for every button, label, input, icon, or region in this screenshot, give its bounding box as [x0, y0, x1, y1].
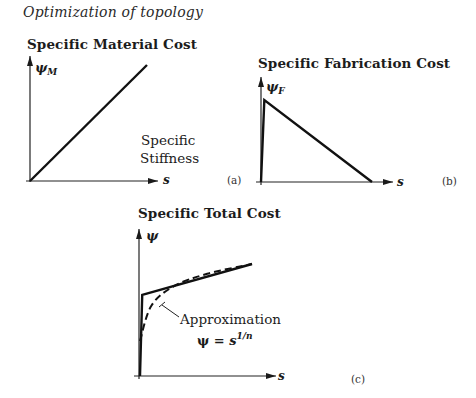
- panel-b-series-cost-line: [261, 100, 372, 182]
- panel-c-series-cost-line: [140, 264, 252, 376]
- panel-c-series-approximation-curve: [140, 264, 252, 341]
- annotation-pointer: [162, 305, 179, 317]
- figure-canvas: [0, 0, 476, 398]
- panel-a-series-cost-line: [30, 65, 147, 181]
